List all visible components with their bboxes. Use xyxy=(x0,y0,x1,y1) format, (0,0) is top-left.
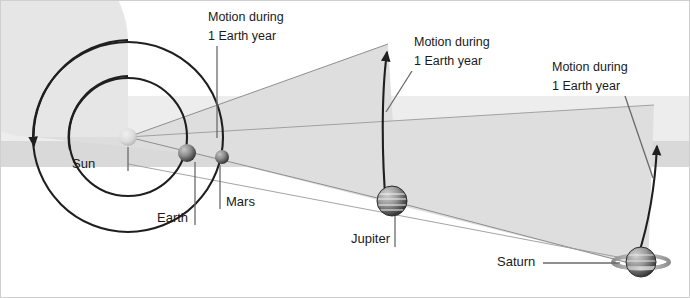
jupiter-body xyxy=(376,186,408,216)
earth-body xyxy=(178,144,196,162)
astronomy-diagram: Motion during 1 Earth year Motion during… xyxy=(0,0,690,298)
motion-earth-line2: 1 Earth year xyxy=(208,29,276,43)
mars-body xyxy=(215,150,229,164)
earth-label: Earth xyxy=(157,210,188,225)
motion-jupiter-line1: Motion during xyxy=(414,35,490,49)
sun-label: Sun xyxy=(72,156,95,171)
sun-body xyxy=(119,128,137,146)
motion-jupiter-line2: 1 Earth year xyxy=(414,54,482,68)
motion-label-group: Motion during 1 Earth year Motion during… xyxy=(208,10,628,93)
saturn-label: Saturn xyxy=(497,254,535,269)
motion-earth-line1: Motion during xyxy=(208,10,284,24)
wedge-earth xyxy=(0,0,128,137)
jupiter-label: Jupiter xyxy=(351,231,391,246)
motion-saturn-line1: Motion during xyxy=(552,60,628,74)
motion-saturn-line2: 1 Earth year xyxy=(552,79,620,93)
mars-label: Mars xyxy=(226,194,255,209)
